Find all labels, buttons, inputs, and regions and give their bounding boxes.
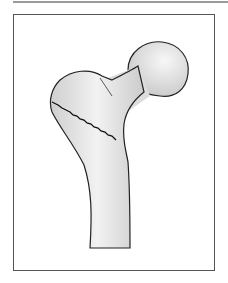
femur-illustration — [0, 0, 228, 283]
femoral-shaft — [50, 66, 144, 248]
